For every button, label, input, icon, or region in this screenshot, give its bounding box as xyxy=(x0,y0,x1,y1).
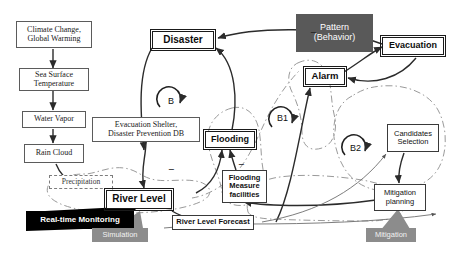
polarity-sign-disaster: − xyxy=(310,26,316,38)
link-riverlevel-to-flooding xyxy=(196,150,222,193)
diagram-canvas: Climate Change, Global Warming Sea Surfa… xyxy=(0,0,460,253)
link-facilities-to-flooding xyxy=(230,150,236,170)
node-simulation[interactable]: Simulation xyxy=(92,228,148,242)
link-evacuation-loop-to-alarm xyxy=(348,58,416,81)
node-mitigation[interactable]: Mitigation xyxy=(366,228,416,242)
node-disaster[interactable]: Disaster xyxy=(152,31,214,49)
node-evacuation-shelter-db[interactable]: Evacuation Shelter, Disaster Prevention … xyxy=(92,117,200,142)
node-alarm[interactable]: Alarm xyxy=(305,68,345,85)
loop-label-b2: B2 xyxy=(350,143,361,153)
node-mitigation-planning[interactable]: Mitigation planning xyxy=(374,184,426,211)
node-flooding-measure-facilities[interactable]: Flooding Measure facilities xyxy=(222,170,267,203)
node-water-vapor[interactable]: Water Vapor xyxy=(22,111,86,128)
node-candidates-selection[interactable]: Candidates Selection xyxy=(387,124,439,152)
link-flooding-to-disaster xyxy=(216,48,235,130)
loop-label-b: B xyxy=(168,96,174,106)
node-real-time-monitoring[interactable]: Real-time Monitoring xyxy=(26,211,134,229)
node-rain-cloud[interactable]: Rain Cloud xyxy=(24,144,84,163)
link-forecast-to-alarm xyxy=(276,88,310,222)
node-evacuation[interactable]: Evacuation xyxy=(382,37,444,55)
polarity-sign-flooding-measure: − xyxy=(238,158,244,170)
node-pattern-behavior[interactable]: Pattern (Behavior) xyxy=(296,14,373,52)
node-flooding[interactable]: Flooding xyxy=(205,131,255,148)
polarity-sign-river-level: − xyxy=(168,163,174,175)
node-river-level[interactable]: River Level xyxy=(106,190,172,209)
node-precipitation[interactable]: Precipitation xyxy=(49,175,113,189)
node-river-level-forecast[interactable]: River Level Forecast xyxy=(172,215,254,230)
link-candidates-to-planning xyxy=(399,153,404,183)
node-sea-surface-temperature[interactable]: Sea Surface Temperature xyxy=(19,68,89,91)
loop-label-b1: B1 xyxy=(277,113,288,123)
node-climate-change[interactable]: Climate Change, Global Warming xyxy=(16,21,92,48)
